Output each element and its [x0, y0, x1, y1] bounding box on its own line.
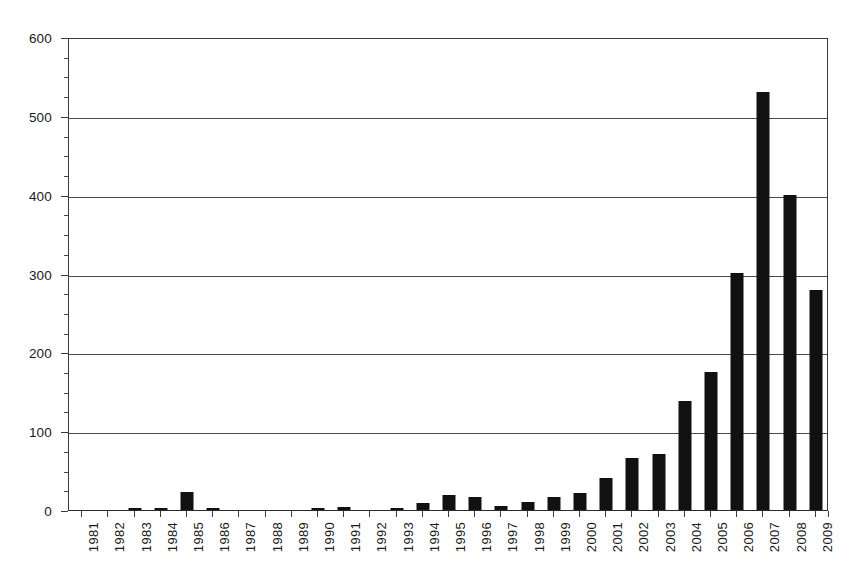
bar	[705, 372, 718, 510]
x-tick-label-1998: 1998	[532, 522, 547, 552]
bar	[207, 508, 220, 510]
bar-slot	[174, 39, 200, 510]
y-major-tick-200	[61, 353, 68, 354]
bar-slot	[567, 39, 593, 510]
bar-slot	[803, 39, 829, 510]
x-tick-label-2006: 2006	[741, 522, 756, 552]
y-major-tick-500	[61, 117, 68, 118]
bar-slot	[515, 39, 541, 510]
bar	[154, 508, 167, 510]
y-major-tick-400	[61, 196, 68, 197]
x-tick-end	[828, 511, 829, 517]
bar	[626, 458, 639, 510]
x-tick	[474, 511, 475, 517]
x-tick	[579, 511, 580, 517]
bar-slot	[121, 39, 147, 510]
bar-slot	[488, 39, 514, 510]
x-tick	[736, 511, 737, 517]
x-tick	[160, 511, 161, 517]
x-tick-label-1982: 1982	[112, 522, 127, 552]
bar	[678, 401, 691, 510]
y-tick-label-100: 100	[29, 425, 52, 440]
x-tick	[710, 511, 711, 517]
bar-slot	[646, 39, 672, 510]
bar-slot	[226, 39, 252, 510]
x-tick	[815, 511, 816, 517]
x-tick-label-2005: 2005	[715, 522, 730, 552]
bar-slot	[200, 39, 226, 510]
bar	[809, 290, 822, 510]
x-tick	[789, 511, 790, 517]
x-tick-label-1988: 1988	[270, 522, 285, 552]
bar	[652, 454, 665, 510]
bar-slot	[383, 39, 409, 510]
x-tick	[107, 511, 108, 517]
bars-layer	[69, 39, 827, 510]
x-tick	[762, 511, 763, 517]
x-tick	[81, 511, 82, 517]
x-tick	[631, 511, 632, 517]
y-major-tick-0	[61, 511, 68, 512]
x-tick	[186, 511, 187, 517]
bar-slot	[436, 39, 462, 510]
y-tick-label-400: 400	[29, 188, 52, 203]
bar	[757, 92, 770, 510]
bar-slot	[698, 39, 724, 510]
bar	[495, 506, 508, 510]
x-tick-label-1981: 1981	[86, 522, 101, 552]
bar-slot	[724, 39, 750, 510]
plot-area	[68, 38, 828, 511]
x-tick-label-1995: 1995	[453, 522, 468, 552]
bar-slot	[357, 39, 383, 510]
bar-slot	[672, 39, 698, 510]
x-tick-label-1984: 1984	[165, 522, 180, 552]
bar	[180, 492, 193, 510]
x-tick-label-2007: 2007	[767, 522, 782, 552]
x-tick	[422, 511, 423, 517]
x-tick	[396, 511, 397, 517]
bar	[469, 497, 482, 510]
x-tick	[369, 511, 370, 517]
bar-slot	[777, 39, 803, 510]
bar	[338, 507, 351, 510]
x-tick-label-2003: 2003	[663, 522, 678, 552]
bar-slot	[148, 39, 174, 510]
x-tick	[291, 511, 292, 517]
x-tick	[238, 511, 239, 517]
bar-slot	[331, 39, 357, 510]
x-tick-label-2008: 2008	[794, 522, 809, 552]
bar-slot	[279, 39, 305, 510]
x-tick-label-1992: 1992	[374, 522, 389, 552]
bar-slot	[69, 39, 95, 510]
bar-slot	[750, 39, 776, 510]
bar-chart: 0100200300400500600 19811982198319841985…	[0, 0, 860, 579]
x-tick	[658, 511, 659, 517]
bar	[442, 495, 455, 510]
x-tick-label-1994: 1994	[427, 522, 442, 552]
x-tick	[605, 511, 606, 517]
x-tick-label-1993: 1993	[401, 522, 416, 552]
y-major-tick-300	[61, 275, 68, 276]
bar-slot	[95, 39, 121, 510]
x-axis: 1981198219831984198519861987198819891990…	[68, 511, 828, 579]
bar-slot	[619, 39, 645, 510]
x-tick	[500, 511, 501, 517]
x-tick-label-2000: 2000	[584, 522, 599, 552]
x-tick-label-1989: 1989	[296, 522, 311, 552]
x-tick	[317, 511, 318, 517]
x-tick-label-1996: 1996	[479, 522, 494, 552]
x-tick	[527, 511, 528, 517]
x-tick	[343, 511, 344, 517]
x-tick-label-2002: 2002	[636, 522, 651, 552]
bar	[783, 195, 796, 510]
x-tick-label-1983: 1983	[139, 522, 154, 552]
x-tick-label-1986: 1986	[217, 522, 232, 552]
bar-slot	[305, 39, 331, 510]
x-tick-label-2001: 2001	[610, 522, 625, 552]
x-tick-label-1999: 1999	[558, 522, 573, 552]
x-tick	[448, 511, 449, 517]
bar-slot	[462, 39, 488, 510]
bar	[311, 508, 324, 510]
bar	[390, 508, 403, 510]
bar	[731, 273, 744, 510]
